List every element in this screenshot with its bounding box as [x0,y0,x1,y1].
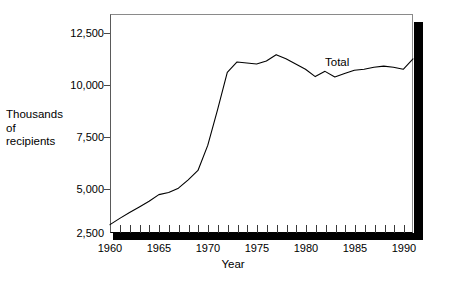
x-tick-label: 1960 [88,242,132,254]
y-axis-title-line: recipients [6,135,98,149]
x-tick-label: 1975 [235,242,279,254]
x-axis-title-text: Year [221,258,244,270]
x-tick-label: 1980 [284,242,328,254]
x-axis-title: Year [0,258,452,271]
y-axis-title-line: of [6,122,98,136]
y-axis-title-line: Thousands [6,108,98,122]
x-tick-label: 1990 [382,242,426,254]
y-axis-title: Thousands of recipients [6,108,98,149]
x-tick-label: 1970 [186,242,230,254]
series-total-line [110,14,413,233]
x-tick-label: 1965 [137,242,181,254]
series-annotation-total: Total [325,56,349,68]
x-tick-label: 1985 [333,242,377,254]
line-chart-figure: 12,500 10,000 7,500 5,000 2,500 [0,0,452,288]
